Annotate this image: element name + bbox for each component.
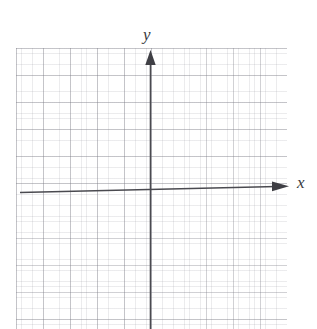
y-axis-label: y (143, 26, 151, 43)
x-axis (20, 181, 289, 192)
x-axis-line (20, 187, 277, 193)
axes-group (0, 0, 317, 329)
y-axis-arrowhead-icon (145, 50, 155, 65)
x-axis-label: x (297, 174, 305, 191)
x-axis-arrowhead-icon (272, 181, 289, 191)
coordinate-plane-figure: y x (0, 0, 317, 329)
